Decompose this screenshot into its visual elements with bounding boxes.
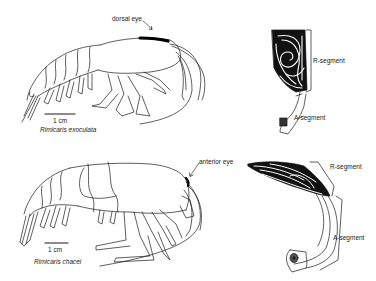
r-segment-label-bottom: R-segment <box>330 163 362 170</box>
a-segment-label-top: A-segment <box>294 114 325 121</box>
shrimp-exoculata-drawing <box>22 21 205 124</box>
figure-drawings <box>0 0 376 281</box>
r-segment-label-top: R-segment <box>313 57 345 64</box>
scale-bar-label-chacei: 1 cm <box>48 246 62 253</box>
species-name-exoculata: Rimicaris exoculata <box>40 126 96 133</box>
species-name-chacei: Rimicaris chacei <box>34 258 81 265</box>
a-segment-label-bottom: A-segment <box>333 234 364 241</box>
anterior-eye-label: anterior eye <box>199 158 233 165</box>
figure: dorsal eye 1 cm Rimicaris exoculata R-se… <box>0 0 376 281</box>
eye-detail-chacei-drawing <box>248 162 342 272</box>
dorsal-eye-label: dorsal eye <box>112 15 142 22</box>
scale-bar-label-exoculata: 1 cm <box>53 117 67 124</box>
